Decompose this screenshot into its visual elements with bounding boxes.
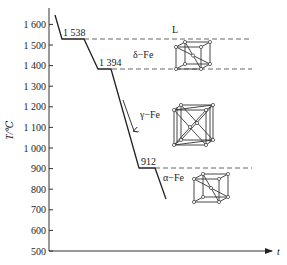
y-tick-label: 900 [31, 163, 46, 174]
y-tick-label: 1 200 [24, 101, 47, 112]
bcc-unit-cell-delta-icon [174, 40, 211, 70]
bcc-unit-cell-alpha-icon [192, 172, 229, 203]
y-tick-label: 1 500 [24, 40, 47, 51]
y-tick-label: 1 400 [24, 60, 47, 71]
y-tick-label: 1 600 [24, 19, 47, 30]
phase-label-delta-fe: δ−Fe [133, 49, 154, 60]
y-tick-label: 1 300 [24, 81, 47, 92]
y-tick-label: 1 000 [24, 143, 47, 154]
y-tick-label: 500 [31, 246, 46, 257]
y-tick-label: 800 [31, 184, 46, 195]
transition-label-1394: 1 394 [99, 57, 122, 68]
x-axis-label: t [277, 246, 280, 257]
cooling-curve [55, 15, 166, 199]
y-tick-label: 600 [31, 225, 46, 236]
y-axis-label: T/℃ [4, 120, 15, 140]
phase-label-l: L [172, 24, 178, 35]
iron-cooling-curve-diagram: t T/℃ 1 6001 5001 4001 3001 2001 1001 00… [0, 0, 287, 265]
transition-label-1538: 1 538 [63, 27, 86, 38]
transition-label-912: 912 [141, 156, 156, 167]
y-tick-label: 1 100 [24, 122, 47, 133]
y-tick-label: 700 [31, 204, 46, 215]
fcc-unit-cell-gamma-icon [172, 103, 214, 146]
phase-label-gamma-fe: γ−Fe [139, 109, 161, 120]
phase-label-alpha-fe: α−Fe [163, 172, 184, 183]
